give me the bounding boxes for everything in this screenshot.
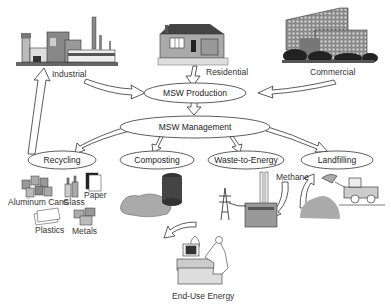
office-building-icon	[282, 8, 378, 63]
glass-bottles-icon	[65, 176, 78, 197]
label-paper: Paper	[84, 191, 107, 200]
power-pylon-icon	[219, 188, 246, 220]
label-aluminum-cans: Aluminum Cans	[8, 198, 68, 207]
node-landfilling: Landfilling	[318, 156, 356, 165]
node-waste-to-energy: Waste-to-Energy	[214, 156, 277, 165]
label-industrial: Industrial	[52, 70, 87, 79]
factory-icon	[16, 17, 118, 66]
label-residential: Residential	[206, 68, 248, 77]
msw-diagram: Industrial Residential Commercial MSW Pr…	[0, 0, 391, 308]
label-metals: Metals	[72, 227, 97, 236]
label-commercial: Commercial	[310, 68, 355, 77]
label-glass: Glass	[63, 198, 85, 207]
node-production: MSW Production	[163, 89, 227, 98]
metals-icon	[74, 208, 95, 225]
node-recycling: Recycling	[44, 156, 81, 165]
house-icon	[158, 24, 228, 65]
label-methane: Methane	[276, 173, 309, 182]
node-composting: Composting	[134, 156, 179, 165]
power-plant-icon	[245, 172, 277, 227]
computer-user-icon	[177, 237, 228, 285]
aluminum-cans-icon	[22, 176, 52, 197]
label-plastics: Plastics	[35, 226, 64, 235]
paper-stack-icon	[86, 173, 101, 191]
label-end-use-energy: End-Use Energy	[172, 292, 234, 301]
plastics-icon	[34, 208, 60, 225]
compost-bin-icon	[120, 173, 182, 217]
node-management: MSW Management	[159, 123, 232, 132]
